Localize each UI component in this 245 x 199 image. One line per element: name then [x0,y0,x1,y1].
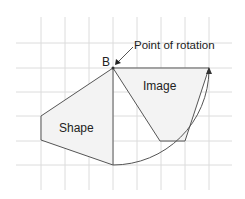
point-of-rotation-label: Point of rotation [134,39,215,51]
pointer-line [118,47,133,62]
point-b-label: B [102,55,110,69]
point-b-marker [112,67,115,70]
image-label: Image [143,79,177,93]
original-shape [41,68,113,165]
shape-label: Shape [59,121,94,135]
rotation-diagram: B Point of rotation Image Shape [0,0,245,199]
